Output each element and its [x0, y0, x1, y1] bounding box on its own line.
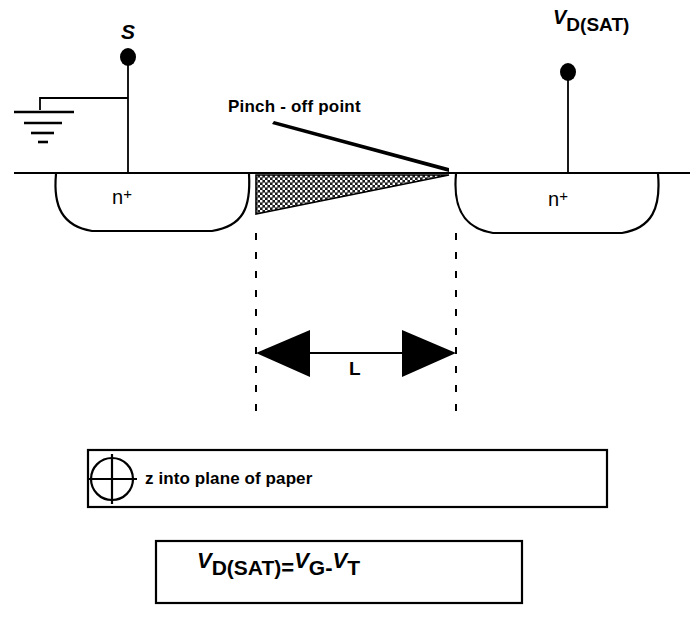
drain-node-dot [560, 63, 576, 81]
drain-label-subscript: D(SAT) [566, 14, 629, 35]
right-well-label: n+ [548, 188, 568, 209]
mosfet-pinchoff-diagram: S VD(SAT) n+ n+ Pinch - off point L z in… [0, 0, 695, 619]
left-well-label: n+ [112, 186, 132, 207]
channel-length-label: L [349, 359, 361, 378]
eq-minus: - [325, 555, 332, 580]
eq-equals: = [281, 555, 294, 580]
arrowhead-right [402, 330, 456, 377]
ground-symbol [14, 97, 128, 142]
right-well-superscript: + [559, 187, 568, 204]
channel-extent-dashed-lines [256, 233, 456, 412]
saturation-voltage-equation: VD(SAT)=VG-VT [197, 557, 360, 579]
drain-label-v: V [553, 6, 566, 28]
z-into-page-icon [87, 454, 137, 504]
pinch-off-point-label: Pinch - off point [228, 98, 361, 115]
source-lead [120, 48, 136, 173]
left-well-letter: n [112, 186, 123, 208]
source-terminal-label: S [121, 21, 135, 42]
eq-lhs-v: V [197, 548, 212, 573]
right-well-letter: n [548, 188, 559, 210]
left-well-superscript: + [123, 185, 132, 202]
source-node-dot [120, 48, 136, 66]
pinch-off-depletion-region [256, 175, 449, 214]
eq-rhs2-v: V [333, 548, 348, 573]
eq-rhs1-sub: G [309, 556, 325, 579]
eq-lhs-sub: D(SAT) [212, 556, 282, 579]
eq-rhs1-v: V [294, 548, 309, 573]
arrowhead-left [256, 330, 310, 377]
left-n-plus-well [55, 174, 249, 231]
diagram-canvas [0, 0, 695, 619]
drain-lead [560, 63, 576, 173]
drain-terminal-label: VD(SAT) [553, 14, 629, 34]
legend-text: z into plane of paper [145, 470, 312, 487]
pinch-off-leader-line [272, 121, 449, 172]
eq-rhs2-sub: T [347, 556, 360, 579]
